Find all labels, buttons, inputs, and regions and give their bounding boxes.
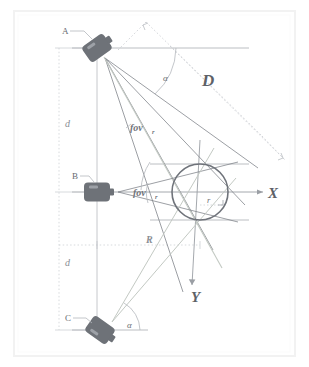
dimension-r-label: R xyxy=(145,234,153,245)
geometry-diagram: A B C α α fov r fov r d d R D r X Y xyxy=(0,0,309,367)
x-axis-label: X xyxy=(267,185,279,201)
camera-c-label: C xyxy=(65,313,71,323)
camera-b-label: B xyxy=(72,171,78,181)
camera-b-lens xyxy=(109,189,114,196)
camera-b-viewfinder xyxy=(89,186,98,189)
camera-a-label: A xyxy=(62,26,69,36)
camera-b-body xyxy=(84,183,110,202)
figure-frame xyxy=(14,11,295,356)
dimension-d-band-label: D xyxy=(201,71,214,90)
fov-camera-b-text: fov xyxy=(133,187,146,198)
figure-root: A B C α α fov r fov r d d R D r X Y xyxy=(0,0,309,367)
fov-camera-a-text: fov xyxy=(130,122,143,133)
camera-b[interactable] xyxy=(84,183,114,202)
angle-alpha-bottom-label: α xyxy=(127,320,132,330)
angle-alpha-top-label: α xyxy=(163,73,168,83)
